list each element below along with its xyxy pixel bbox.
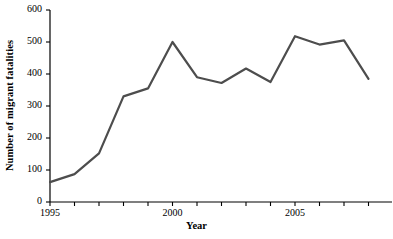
y-tick-label: 0 [16, 195, 42, 206]
x-tick-label: 2005 [275, 207, 315, 218]
y-tick-label: 500 [16, 35, 42, 46]
y-tick-label: 300 [16, 99, 42, 110]
data-series-line [50, 36, 369, 182]
y-tick-label: 100 [16, 163, 42, 174]
y-tick-label: 400 [16, 67, 42, 78]
x-tick-label: 2000 [153, 207, 193, 218]
plot-area [0, 0, 393, 239]
axes [50, 10, 392, 202]
x-axis-ticks [50, 202, 369, 206]
x-tick-label: 1995 [30, 207, 70, 218]
chart-container: Number of migrant fatalities Year 010020… [0, 0, 393, 239]
y-tick-label: 200 [16, 131, 42, 142]
y-tick-label: 600 [16, 3, 42, 14]
